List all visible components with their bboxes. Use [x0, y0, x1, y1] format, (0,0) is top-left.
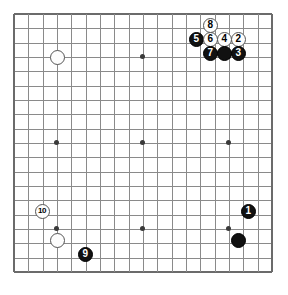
stone-move-number: 3 [235, 48, 240, 58]
stone-move-number: 5 [193, 34, 198, 44]
grid-line-vertical-5 [71, 14, 72, 272]
grid-line-vertical-7 [100, 14, 101, 272]
grid-line-vertical-9 [129, 14, 130, 272]
grid-line-vertical-11 [157, 14, 158, 272]
hoshi-star-point-5 [140, 140, 145, 145]
stone-move-number: 2 [235, 34, 240, 44]
grid-line-vertical-19 [271, 14, 273, 272]
stone-white-move-8[interactable]: 8 [203, 18, 218, 33]
stone-move-number: 8 [207, 20, 212, 30]
stone-move-number: 6 [207, 34, 212, 44]
stone-black-move-3[interactable]: 3 [231, 46, 246, 61]
hoshi-star-point-2 [140, 54, 145, 59]
stone-move-number: 4 [221, 34, 226, 44]
hoshi-star-point-9 [226, 226, 231, 231]
grid-line-vertical-18 [258, 14, 259, 272]
grid-line-vertical-12 [172, 14, 173, 272]
stone-white-lower-left[interactable] [50, 233, 65, 248]
grid-line-vertical-6 [86, 14, 87, 272]
stone-white-move-6[interactable]: 6 [203, 32, 218, 47]
hoshi-star-point-7 [54, 226, 59, 231]
stone-white-move-4[interactable]: 4 [217, 32, 232, 47]
hoshi-star-point-6 [226, 140, 231, 145]
stone-move-number: 1 [245, 206, 250, 216]
goban-grid[interactable]: 85642731019 [0, 0, 288, 295]
grid-line-vertical-1 [13, 14, 15, 272]
grid-line-vertical-2 [28, 14, 29, 272]
hoshi-star-point-4 [54, 140, 59, 145]
stone-black-move-9[interactable]: 9 [78, 247, 93, 262]
grid-line-vertical-8 [114, 14, 115, 272]
grid-line-vertical-3 [43, 14, 44, 272]
go-board-diagram: 85642731019 [0, 0, 288, 295]
stone-move-number: 10 [38, 207, 46, 215]
grid-line-vertical-13 [186, 14, 187, 272]
grid-line-vertical-14 [200, 14, 201, 272]
stone-black-move-7[interactable]: 7 [203, 46, 218, 61]
stone-move-number: 9 [82, 249, 87, 259]
stone-move-number: 7 [207, 48, 212, 58]
stone-black-unnumbered-top[interactable] [217, 46, 232, 61]
stone-black-lower-right[interactable] [231, 233, 246, 248]
hoshi-star-point-8 [140, 226, 145, 231]
stone-black-move-5[interactable]: 5 [189, 32, 204, 47]
stone-white-d16[interactable] [50, 50, 65, 65]
stone-black-move-1[interactable]: 1 [241, 204, 256, 219]
stone-white-move-10[interactable]: 10 [35, 204, 50, 219]
stone-white-move-2[interactable]: 2 [231, 32, 246, 47]
